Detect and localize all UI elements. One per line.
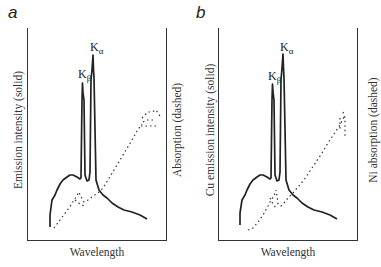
emission-absorption-plot [0, 0, 190, 267]
cu-emission-ni-absorption-plot [190, 0, 381, 267]
panel-a: a Emission intensity (solid) Absorption … [0, 0, 190, 267]
panel-b: b Cu emission intensity (solid) Ni absor… [190, 0, 380, 267]
